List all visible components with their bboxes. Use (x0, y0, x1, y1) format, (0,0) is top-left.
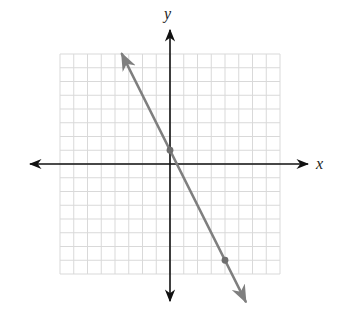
data-point (167, 147, 174, 154)
data-point (222, 257, 229, 264)
x-axis-label: x (315, 155, 323, 172)
coordinate-plane: x y (0, 0, 342, 316)
y-axis-label: y (162, 5, 172, 23)
